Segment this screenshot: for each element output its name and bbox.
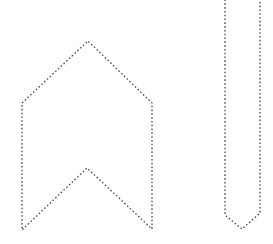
vertical-strip-arrow-shape (225, 0, 260, 229)
chevron-banner-shape (22, 41, 152, 230)
diagram-canvas (0, 0, 273, 244)
